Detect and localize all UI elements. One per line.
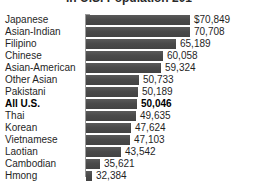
bar — [86, 75, 139, 85]
bar-category-label: Pakistani — [5, 86, 85, 98]
bar-category-label: Vietnamese — [5, 134, 85, 146]
bar-value-label: 50,189 — [142, 86, 173, 98]
bar-category-label: Cambodian — [5, 158, 85, 170]
bar — [86, 111, 136, 121]
bar — [86, 99, 137, 109]
bar — [86, 147, 121, 157]
bar-value-label: $70,849 — [194, 14, 230, 26]
bar-value-label: 50,046 — [141, 98, 172, 110]
bar-value-label: 60,058 — [167, 50, 198, 62]
bar-category-label: Laotian — [5, 146, 85, 158]
bar-value-label: 43,542 — [125, 146, 156, 158]
bar-value-label: 47,103 — [134, 134, 165, 146]
bar-row: Vietnamese47,103 — [0, 134, 258, 146]
bar-category-label: Hmong — [5, 170, 85, 182]
bar — [86, 27, 190, 37]
bar-value-label: 35,621 — [104, 158, 135, 170]
bar-row: Pakistani50,189 — [0, 86, 258, 98]
bar-value-label: 47,624 — [135, 122, 166, 134]
bar — [86, 87, 138, 97]
bar-row: Thai49,635 — [0, 110, 258, 122]
bar-value-label: 59,324 — [165, 62, 196, 74]
bar — [86, 171, 92, 181]
bar-row: Chinese60,058 — [0, 50, 258, 62]
bar-category-label: Asian-Indian — [5, 26, 85, 38]
bar-value-label: 32,384 — [96, 170, 127, 182]
bar-row: All U.S.50,046 — [0, 98, 258, 110]
bar-chart: in U.S. Population 201 Japanese$70,849As… — [0, 0, 258, 189]
bar-category-label: Filipino — [5, 38, 85, 50]
chart-title-clip: in U.S. Population 201 — [0, 0, 258, 5]
chart-title: in U.S. Population 201 — [0, 0, 258, 5]
bar — [86, 39, 176, 49]
bar-category-label: Thai — [5, 110, 85, 122]
bar-value-label: 65,189 — [180, 38, 211, 50]
bar-row: Asian-Indian70,708 — [0, 26, 258, 38]
bar-category-label: Chinese — [5, 50, 85, 62]
bar-row: Hmong32,384 — [0, 170, 258, 182]
bar — [86, 63, 161, 73]
bar — [86, 123, 131, 133]
bar — [86, 159, 100, 169]
bar-row: Korean47,624 — [0, 122, 258, 134]
bar-category-label: Japanese — [5, 14, 85, 26]
bar-value-label: 49,635 — [140, 110, 171, 122]
bar-category-label: Asian-American — [5, 62, 85, 74]
bar-value-label: 50,733 — [143, 74, 174, 86]
bar-row: Other Asian50,733 — [0, 74, 258, 86]
plot-area: Japanese$70,849Asian-Indian70,708Filipin… — [0, 14, 258, 182]
bar-row: Japanese$70,849 — [0, 14, 258, 26]
bar-row: Filipino65,189 — [0, 38, 258, 50]
bar — [86, 135, 130, 145]
bar-category-label: All U.S. — [5, 98, 85, 110]
bar-category-label: Other Asian — [5, 74, 85, 86]
bar-category-label: Korean — [5, 122, 85, 134]
bar-value-label: 70,708 — [194, 26, 225, 38]
bar — [86, 15, 190, 25]
bar — [86, 51, 163, 61]
bar-row: Laotian43,542 — [0, 146, 258, 158]
bar-row: Cambodian35,621 — [0, 158, 258, 170]
bar-row: Asian-American59,324 — [0, 62, 258, 74]
